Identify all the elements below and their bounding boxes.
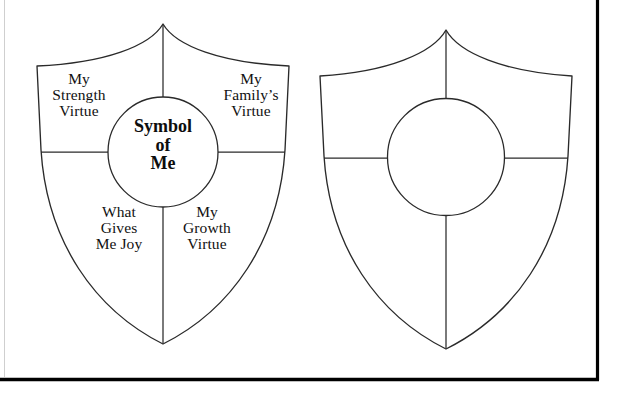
worksheet-page: My Strength Virtue My Family’s Virtue Wh…: [0, 0, 618, 400]
shield-right-center-circle[interactable]: [388, 99, 505, 216]
shield-left-center-label: Symbol of Me: [113, 117, 213, 173]
shield-left-quadrant-label-top-right: My Family’s Virtue: [208, 71, 294, 118]
shield-left-quadrant-label-top-left: My Strength Virtue: [36, 71, 122, 118]
shield-left-quadrant-label-bottom-left: What Gives Me Joy: [78, 204, 160, 251]
shield-right-group[interactable]: [320, 30, 572, 349]
shield-left-quadrant-label-bottom-right: My Growth Virtue: [166, 204, 248, 251]
shield-worksheet-drawing: [0, 0, 618, 400]
